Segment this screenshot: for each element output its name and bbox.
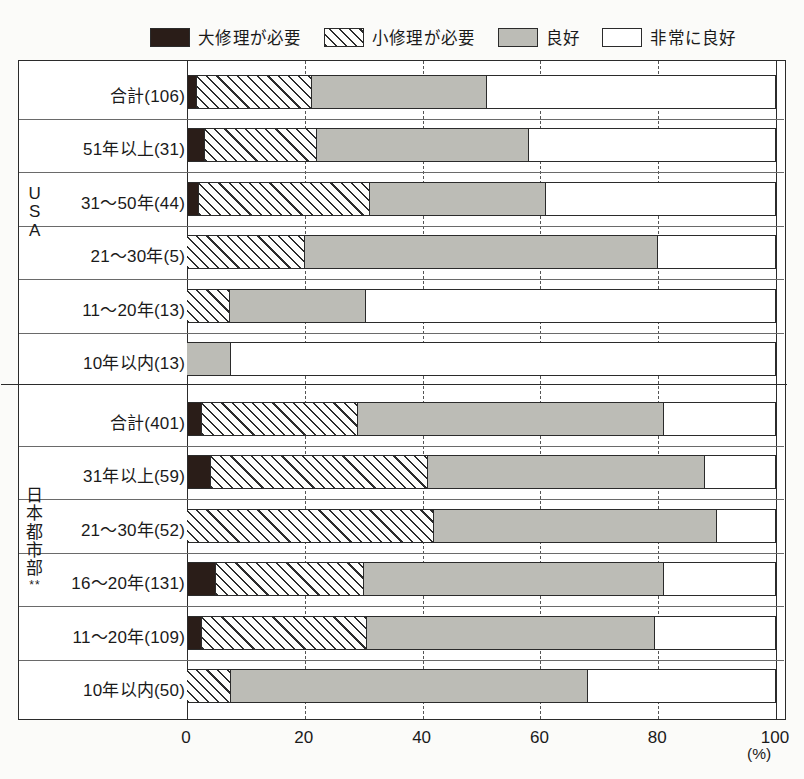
- stacked-bar[interactable]: [187, 289, 776, 323]
- bar-segment-verygood[interactable]: [529, 128, 776, 162]
- bar-segment-minor[interactable]: [197, 75, 312, 109]
- group-label-char: 日: [22, 487, 48, 505]
- legend-swatch-minor-repair-icon: [324, 28, 364, 47]
- bar-segment-verygood[interactable]: [588, 669, 776, 703]
- bar-segment-verygood[interactable]: [705, 455, 776, 489]
- bar-segment-minor[interactable]: [202, 402, 358, 436]
- bar-segment-good[interactable]: [317, 128, 529, 162]
- legend-label-major: 大修理が必要: [198, 25, 302, 49]
- stacked-bar[interactable]: [187, 342, 776, 376]
- bar-segment-verygood[interactable]: [366, 289, 776, 323]
- bar-segment-good[interactable]: [187, 342, 231, 376]
- bar-segment-verygood[interactable]: [487, 75, 776, 109]
- bar-row: 10年以内(50): [19, 660, 785, 714]
- bar-segment-good[interactable]: [305, 235, 658, 269]
- group-label-char: U: [22, 185, 48, 203]
- legend-swatch-major-repair-icon: [150, 28, 190, 47]
- x-tick-label-0: 0: [181, 728, 190, 748]
- row-label: 10年以内(13): [0, 349, 185, 374]
- stacked-bar[interactable]: [187, 235, 776, 269]
- bar-row: 51年以上(31): [19, 119, 785, 173]
- bar-segment-verygood[interactable]: [231, 342, 776, 376]
- x-tick-label-60: 60: [530, 728, 549, 748]
- bar-segment-good[interactable]: [231, 669, 587, 703]
- group-label-char: A: [22, 222, 48, 240]
- group-label-char: 都: [22, 524, 48, 542]
- chart-legend: 大修理が必要 小修理が必要 良好 非常に良好: [150, 24, 737, 50]
- bar-segment-minor[interactable]: [199, 182, 370, 216]
- bar-segment-major[interactable]: [187, 402, 202, 436]
- row-label: 31年以上(59): [0, 462, 185, 487]
- x-tick-label-80: 80: [648, 728, 667, 748]
- row-label: 11〜20年(13): [0, 296, 185, 321]
- row-label: 11〜20年(109): [0, 623, 185, 648]
- bar-row: 11〜20年(109): [19, 606, 785, 660]
- bar-segment-minor[interactable]: [187, 289, 230, 323]
- bar-segment-minor[interactable]: [211, 455, 429, 489]
- bar-segment-minor[interactable]: [187, 669, 231, 703]
- bar-segment-major[interactable]: [187, 128, 205, 162]
- bar-segment-minor[interactable]: [216, 562, 363, 596]
- legend-swatch-very-good-icon: [602, 28, 642, 47]
- bar-segment-verygood[interactable]: [717, 509, 776, 543]
- bar-segment-verygood[interactable]: [658, 235, 776, 269]
- bar-row: 合計(106): [19, 65, 785, 119]
- stacked-bar[interactable]: [187, 562, 776, 596]
- bar-row: 合計(401): [19, 392, 785, 446]
- bar-row: 21〜30年(5): [19, 226, 785, 280]
- bar-segment-minor[interactable]: [187, 509, 434, 543]
- bar-segment-verygood[interactable]: [664, 402, 776, 436]
- bar-segment-verygood[interactable]: [546, 182, 776, 216]
- bar-segment-major[interactable]: [187, 455, 211, 489]
- row-label: 合計(401): [0, 409, 185, 434]
- stacked-bar[interactable]: [187, 128, 776, 162]
- bar-segment-good[interactable]: [367, 616, 656, 650]
- x-tick-label-20: 20: [294, 728, 313, 748]
- stacked-bar[interactable]: [187, 669, 776, 703]
- stacked-bar[interactable]: [187, 616, 776, 650]
- legend-label-verygood: 非常に良好: [650, 25, 737, 49]
- stacked-bar[interactable]: [187, 182, 776, 216]
- bar-segment-major[interactable]: [187, 182, 199, 216]
- bar-segment-major[interactable]: [187, 616, 202, 650]
- x-tick-label-40: 40: [412, 728, 431, 748]
- bar-segment-good[interactable]: [434, 509, 717, 543]
- legend-item-good: 良好: [498, 25, 581, 49]
- bar-segment-good[interactable]: [428, 455, 705, 489]
- bar-segment-minor[interactable]: [205, 128, 317, 162]
- bar-row: 11〜20年(13): [19, 279, 785, 333]
- row-label: 51年以上(31): [0, 135, 185, 160]
- bar-segment-good[interactable]: [370, 182, 547, 216]
- legend-swatch-good-icon: [498, 28, 538, 47]
- bar-segment-verygood[interactable]: [664, 562, 776, 596]
- row-label: 合計(106): [0, 82, 185, 107]
- bar-segment-good[interactable]: [364, 562, 664, 596]
- stacked-bar[interactable]: [187, 455, 776, 489]
- bar-segment-minor[interactable]: [187, 235, 305, 269]
- legend-label-good: 良好: [546, 25, 581, 49]
- stacked-bar[interactable]: [187, 75, 776, 109]
- group-label-char: 本: [22, 505, 48, 523]
- bar-segment-good[interactable]: [230, 289, 366, 323]
- group-label-char: 部: [22, 560, 48, 578]
- stacked-bar[interactable]: [187, 402, 776, 436]
- bar-segment-good[interactable]: [312, 75, 488, 109]
- legend-item-minor: 小修理が必要: [324, 25, 476, 49]
- bar-segment-good[interactable]: [358, 402, 664, 436]
- x-axis: 020406080100: [18, 720, 786, 760]
- bar-segment-major[interactable]: [187, 75, 197, 109]
- bar-segment-major[interactable]: [187, 562, 216, 596]
- group-label-footnote-marker: **: [22, 579, 48, 592]
- chart-figure: 大修理が必要 小修理が必要 良好 非常に良好 合計(106)51年以上(31)3…: [0, 0, 804, 779]
- bar-row: 31〜50年(44): [19, 172, 785, 226]
- bar-segment-minor[interactable]: [202, 616, 367, 650]
- x-axis-unit: (%): [747, 745, 771, 763]
- bar-row: 31年以上(59): [19, 446, 785, 500]
- bar-row: 16〜20年(131): [19, 553, 785, 607]
- bar-segment-verygood[interactable]: [655, 616, 776, 650]
- stacked-bar[interactable]: [187, 509, 776, 543]
- group-label-japan-urban: 日本都市部**: [22, 487, 48, 592]
- bar-row: 10年以内(13): [19, 333, 785, 387]
- group-label-char: S: [22, 203, 48, 221]
- row-label: 21〜30年(5): [0, 242, 185, 267]
